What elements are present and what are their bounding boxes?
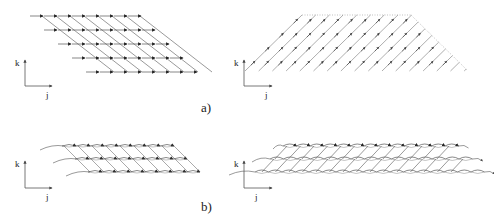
field-arrow — [402, 61, 406, 65]
strand-wave — [297, 157, 311, 159]
strand-link — [147, 159, 160, 172]
strand-wave — [337, 144, 351, 146]
strand-link — [134, 146, 147, 159]
panel-b-left-curved-grid — [40, 145, 200, 177]
strand-under — [405, 146, 419, 148]
field-arrow — [375, 47, 379, 51]
field-arrow — [335, 19, 339, 23]
strand-lead — [53, 159, 77, 164]
strand-wave — [432, 157, 446, 159]
strand-under — [186, 172, 200, 173]
strand-under — [378, 146, 392, 148]
strand-wave — [445, 144, 459, 146]
strand-wave — [269, 170, 283, 172]
strand-wave — [338, 157, 352, 159]
j-axis-label: j — [45, 192, 49, 202]
strand-under — [444, 172, 458, 174]
strand-wave — [391, 144, 405, 146]
field-arrow — [294, 19, 298, 23]
strand-under — [116, 172, 130, 173]
strand-wave — [418, 144, 432, 146]
field-line — [464, 69, 466, 71]
strand-under — [270, 159, 284, 161]
axes-b-left: k j — [15, 159, 52, 202]
field-arrow — [347, 61, 351, 65]
strand-arrow — [146, 145, 160, 147]
strand-wave — [323, 170, 337, 172]
panel-label-a: a) — [201, 100, 211, 115]
strand-wave — [405, 144, 419, 146]
field-arrow — [321, 19, 325, 23]
j-axis-label: j — [254, 192, 258, 202]
strand-under — [284, 159, 298, 161]
strand-wave — [404, 170, 418, 172]
strand-arrow — [90, 145, 104, 147]
edge-right — [174, 146, 200, 172]
strand-wave — [459, 157, 473, 159]
strand-wave — [284, 157, 298, 159]
strand-under — [377, 172, 391, 174]
strand-under — [283, 146, 297, 148]
field-arrow — [348, 33, 352, 37]
field-arrow — [321, 33, 325, 37]
strand-tail — [473, 158, 483, 161]
strand-under — [323, 172, 337, 174]
strand-under — [365, 159, 379, 161]
strand-link — [106, 146, 119, 159]
field-arrow — [416, 47, 420, 51]
strand-wave — [419, 157, 433, 159]
strand-under — [172, 172, 186, 173]
strand-link — [119, 159, 132, 172]
field-line — [451, 62, 460, 71]
strand-under — [392, 159, 406, 161]
strand-wave — [378, 144, 392, 146]
strand-under — [432, 159, 446, 161]
strand-tail — [459, 145, 469, 148]
strand-under — [269, 172, 283, 174]
strand-wave — [351, 144, 365, 146]
field-arrow — [390, 19, 394, 23]
field-arrow — [333, 61, 337, 65]
axes-b-right: k j — [234, 159, 272, 202]
k-axis-label: k — [15, 58, 20, 68]
field-arrow — [265, 47, 269, 51]
strand-under — [363, 172, 377, 174]
field-arrow — [278, 61, 282, 65]
j-axis-label: j — [264, 90, 268, 100]
strand-under — [459, 159, 473, 161]
strand-wave — [471, 170, 485, 172]
field-arrow — [279, 47, 283, 51]
strand-under — [336, 172, 350, 174]
field-arrow — [374, 61, 378, 65]
field-arrow — [306, 47, 310, 51]
strand-link — [120, 146, 133, 159]
k-axis-label: k — [234, 159, 239, 169]
field-line — [423, 49, 445, 71]
field-arrow — [279, 33, 283, 37]
strand-under — [364, 146, 378, 148]
strand-under — [102, 172, 116, 173]
strand-wave — [309, 170, 323, 172]
k-axis-label: k — [234, 58, 239, 68]
strand-tail — [485, 171, 494, 174]
strand-wave — [351, 157, 365, 159]
field-arrow — [375, 33, 379, 37]
strand-under — [144, 172, 158, 173]
strand-link — [148, 146, 161, 159]
field-arrow — [347, 47, 351, 51]
strand-under — [282, 172, 296, 174]
strand-link — [77, 159, 90, 172]
j-axis-label: j — [45, 90, 49, 100]
field-arrow — [307, 33, 311, 37]
field-arrow — [307, 19, 311, 23]
strand-under — [391, 146, 405, 148]
panel-b-right-wavy-strands — [229, 144, 494, 175]
strand-wave — [324, 144, 338, 146]
strand-under — [311, 159, 325, 161]
strand-under — [309, 172, 323, 174]
axes-a-right: k j — [234, 58, 272, 100]
field-arrow — [389, 33, 393, 37]
strand-lead — [273, 145, 283, 149]
strand-wave — [444, 170, 458, 172]
strand-wave — [311, 157, 325, 159]
